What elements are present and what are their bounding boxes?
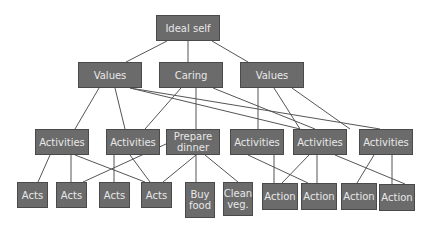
node-caring: Caring [159, 62, 223, 88]
node-clean: Clean veg. [223, 182, 253, 216]
node-act1: Action [262, 183, 298, 210]
edge-line [130, 88, 380, 129]
node-ideal: Ideal self [156, 15, 220, 41]
edge-line [274, 88, 300, 129]
node-prep: Prepare dinner [166, 129, 220, 155]
edge-line [205, 155, 238, 182]
edge-line [75, 88, 99, 129]
edge-line [212, 41, 248, 62]
node-buy: Buy food [185, 182, 215, 218]
edge-line [145, 88, 181, 129]
node-acts2: Acts [56, 182, 87, 208]
node-v1: Values [78, 62, 142, 88]
edge-line [357, 155, 374, 183]
edge-line [213, 88, 315, 129]
node-a2: Activities [106, 129, 160, 155]
edge-line [282, 155, 309, 183]
node-acts4: Acts [141, 182, 172, 208]
node-act4: Action [379, 184, 415, 211]
node-a4: Activities [293, 129, 347, 155]
node-act2: Action [301, 183, 337, 210]
node-acts1: Acts [17, 182, 48, 208]
node-a5: Activities [359, 129, 413, 155]
node-a1: Activities [35, 129, 89, 155]
edge-line [126, 41, 167, 62]
edge-line [115, 88, 125, 129]
edge-line [335, 155, 405, 184]
node-a3: Activities [230, 129, 284, 155]
node-v2: Values [240, 62, 304, 88]
edge-line [130, 88, 300, 129]
edge-line [38, 155, 50, 182]
node-acts3: Acts [99, 182, 130, 208]
node-act3: Action [341, 183, 377, 210]
edge-line [163, 155, 196, 182]
edge-line [75, 155, 145, 182]
edge-line [248, 155, 308, 183]
